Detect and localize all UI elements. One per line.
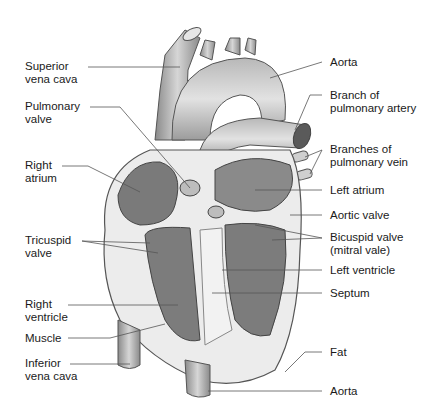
label-right-ventricle: Right ventricle xyxy=(25,298,68,324)
descending-aorta-vessel xyxy=(185,360,210,397)
label-septum: Septum xyxy=(330,287,370,300)
label-left-atrium: Left atrium xyxy=(330,184,384,197)
label-aortic-valve: Aortic valve xyxy=(330,209,389,222)
label-fat: Fat xyxy=(330,346,347,359)
label-branches-pulmonary-vein: Branches of pulmonary vein xyxy=(330,143,408,169)
label-inferior-vena-cava: Inferior vena cava xyxy=(25,357,77,383)
label-tricuspid-valve: Tricuspid valve xyxy=(25,234,71,260)
label-bicuspid-valve: Bicuspid valve (mitral vale) xyxy=(330,231,404,257)
label-muscle: Muscle xyxy=(25,332,61,345)
label-pulmonary-valve: Pulmonary valve xyxy=(25,100,80,126)
label-branch-pulmonary-artery: Branch of pulmonary artery xyxy=(330,89,416,115)
label-aorta-bottom: Aorta xyxy=(330,385,358,398)
label-aorta-top: Aorta xyxy=(330,56,358,69)
label-left-ventricle: Left ventricle xyxy=(330,264,395,277)
label-right-atrium: Right atrium xyxy=(25,159,57,185)
label-superior-vena-cava: Superior vena cava xyxy=(25,60,77,86)
